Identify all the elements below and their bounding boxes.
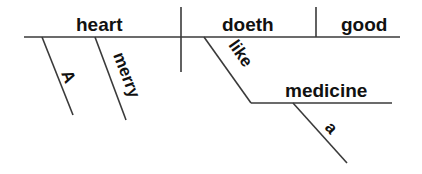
object-article-word: a (321, 118, 342, 138)
complement-word: good (341, 14, 387, 35)
subject-word: heart (76, 14, 123, 35)
sentence-diagram: heart doeth good A merry like medicine a (0, 0, 422, 174)
object-word: medicine (285, 80, 367, 101)
modifier-line-a-lower (293, 103, 347, 163)
preposition-word: like (225, 36, 257, 70)
adjective-word: merry (109, 50, 144, 101)
verb-word: doeth (222, 14, 274, 35)
